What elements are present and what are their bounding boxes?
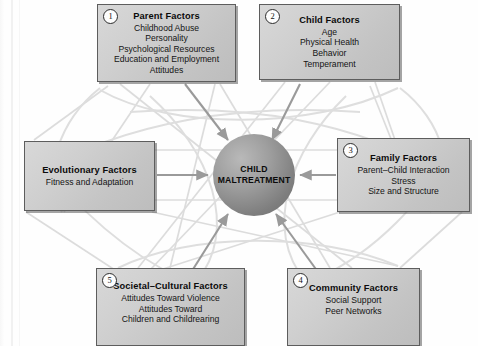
badge-number-3: 3 xyxy=(343,143,358,158)
center-node-child-maltreatment[interactable]: CHILD MALTREATMENT xyxy=(213,134,295,216)
item-child-1: Age xyxy=(322,27,337,38)
item-societal-2: Attitudes Toward xyxy=(139,304,202,315)
title-child-factors: Child Factors xyxy=(299,15,360,25)
badge-number-4: 4 xyxy=(293,273,308,288)
diagram-canvas: 1 Parent Factors Childhood Abuse Persona… xyxy=(0,0,478,346)
item-community-1: Social Support xyxy=(326,295,382,306)
box-community-factors[interactable]: 4 Community Factors Social Support Peer … xyxy=(287,268,420,346)
item-evolutionary-1: Fitness and Adaptation xyxy=(46,177,133,188)
title-community-factors: Community Factors xyxy=(309,283,398,293)
center-label-line-2: MALTREATMENT xyxy=(218,175,291,186)
title-parent-factors: Parent Factors xyxy=(133,11,200,21)
center-label-line-1: CHILD xyxy=(240,164,267,175)
box-family-factors[interactable]: 3 Family Factors Parent–Child Interactio… xyxy=(337,138,470,212)
item-parent-3: Psychological Resources xyxy=(118,44,214,55)
box-parent-factors[interactable]: 1 Parent Factors Childhood Abuse Persona… xyxy=(97,4,236,82)
box-evolutionary-factors[interactable]: Evolutionary Factors Fitness and Adaptat… xyxy=(24,141,155,211)
item-family-3: Size and Structure xyxy=(368,186,439,197)
item-child-2: Physical Health xyxy=(300,37,359,48)
item-family-1: Parent–Child Interaction xyxy=(357,165,449,176)
title-societal-cultural-factors: Societal–Cultural Factors xyxy=(113,281,228,291)
title-evolutionary-factors: Evolutionary Factors xyxy=(42,165,136,175)
item-societal-1: Attitudes Toward Violence xyxy=(121,293,220,304)
badge-number-2: 2 xyxy=(265,9,280,24)
item-child-4: Temperament xyxy=(303,59,356,70)
item-parent-2: Personality xyxy=(145,33,188,44)
item-parent-4: Education and Employment xyxy=(114,54,219,65)
item-community-2: Peer Networks xyxy=(325,306,381,317)
title-family-factors: Family Factors xyxy=(370,153,437,163)
item-parent-1: Childhood Abuse xyxy=(134,23,199,34)
box-child-factors[interactable]: 2 Child Factors Age Physical Health Beha… xyxy=(259,4,400,80)
box-societal-cultural-factors[interactable]: 5 Societal–Cultural Factors Attitudes To… xyxy=(96,268,245,346)
badge-number-5: 5 xyxy=(102,273,117,288)
item-family-2: Stress xyxy=(391,176,415,187)
item-societal-3: Children and Childrearing xyxy=(122,314,219,325)
badge-number-1: 1 xyxy=(103,9,118,24)
item-child-3: Behavior xyxy=(313,48,347,59)
item-parent-5: Attitudes xyxy=(150,65,183,76)
